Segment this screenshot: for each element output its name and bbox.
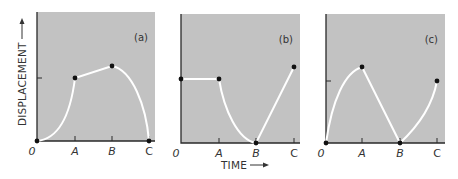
x-tick-label-0: 0 — [173, 147, 180, 160]
panel-b: 0ABC(b) — [173, 14, 301, 160]
x-tick-label-c: C — [145, 145, 153, 158]
x-axis-arrow-icon — [263, 163, 269, 168]
data-point — [110, 64, 115, 69]
x-tick-label-0: 0 — [318, 147, 325, 160]
x-tick-label-c: C — [290, 147, 298, 160]
x-tick-label-0: 0 — [29, 145, 36, 158]
data-point — [324, 141, 329, 146]
y-axis-arrow-icon — [20, 18, 25, 24]
data-point — [35, 139, 40, 144]
data-point — [179, 77, 184, 82]
panel-label: (b) — [279, 34, 293, 45]
x-axis-title: TIME — [220, 159, 247, 171]
displacement-time-figure: DISPLACEMENT 0ABC(a)0ABC(b)0ABC(c) TIME — [0, 0, 458, 179]
x-tick-label-a: A — [357, 147, 366, 160]
y-axis-title-group: DISPLACEMENT — [16, 18, 28, 126]
panels: 0ABC(a)0ABC(b)0ABC(c) — [29, 12, 446, 160]
data-point — [73, 76, 78, 81]
x-tick-label-b: B — [252, 147, 260, 160]
panel-label: (c) — [425, 34, 438, 45]
data-point — [292, 65, 297, 70]
x-tick-label-a: A — [70, 145, 79, 158]
data-point — [435, 79, 440, 84]
panel-c: 0ABC(c) — [318, 14, 446, 160]
panel-label: (a) — [134, 32, 148, 43]
data-point — [254, 141, 259, 146]
panel-a: 0ABC(a) — [29, 12, 156, 158]
x-tick-label-b: B — [396, 147, 404, 160]
data-point — [147, 139, 152, 144]
data-point — [217, 77, 222, 82]
data-point — [398, 141, 403, 146]
data-point — [360, 65, 365, 70]
x-tick-label-b: B — [108, 145, 116, 158]
x-axis-title-group: TIME — [220, 159, 269, 171]
y-axis-title: DISPLACEMENT — [16, 42, 28, 126]
x-tick-label-c: C — [433, 147, 441, 160]
